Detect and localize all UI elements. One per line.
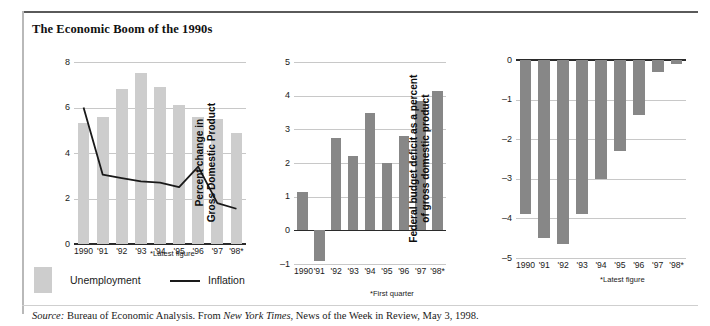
chart-1-y-tick-4: 4 xyxy=(268,91,290,100)
chart-0-y-tick-6: 6 xyxy=(48,103,70,112)
bar xyxy=(520,60,532,214)
bar xyxy=(614,60,626,151)
bar xyxy=(365,113,375,231)
chart-1-y-axis-label-line2: Gross Domestic Product xyxy=(206,103,217,222)
chart-1-x-tick-3: '93 xyxy=(345,267,362,276)
chart-0-y-tick-0: 0 xyxy=(48,240,70,249)
chart-2-x-tick-1: '91 xyxy=(535,261,554,270)
chart-2-y-tick--2: –2 xyxy=(490,135,512,144)
chart-1-x-tick-1: '91 xyxy=(311,267,328,276)
figure-title: The Economic Boom of the 1990s xyxy=(32,22,212,37)
chart-2-y-axis-label-line2: of gross domestic product xyxy=(420,94,431,223)
chart-1-gridline--1 xyxy=(294,264,446,265)
chart-1-y-tick-1: 1 xyxy=(268,192,290,201)
bar xyxy=(331,138,341,231)
legend-inflation-label: Inflation xyxy=(208,274,245,286)
chart-0-x-tick-8: '98* xyxy=(227,247,246,256)
bar xyxy=(432,91,442,231)
bottom-rule xyxy=(22,305,698,306)
source-text-1: Bureau of Economic Analysis. From xyxy=(64,310,223,321)
inflation-line-series xyxy=(74,62,246,244)
chart-1-footnote: *First quarter xyxy=(370,289,414,298)
source-text-2: , News of the Week in Review, May 3, 199… xyxy=(291,310,479,321)
bar xyxy=(297,192,307,231)
chart-0-x-tick-5: '95 xyxy=(170,247,189,256)
chart-0-x-tick-3: '93 xyxy=(131,247,150,256)
chart-2-x-tick-3: '93 xyxy=(573,261,592,270)
chart-2-y-axis-label-line1: Federal budget deficit as a percent xyxy=(408,75,419,243)
chart-0-x-tick-4: '94 xyxy=(150,247,169,256)
top-rule xyxy=(22,11,698,13)
chart-2-x-tick-7: '97 xyxy=(648,261,667,270)
bar xyxy=(595,60,607,179)
source-prefix: Source: xyxy=(32,310,64,321)
chart-2-y-tick-0: 0 xyxy=(490,56,512,65)
chart-1-y-tick-2: 2 xyxy=(268,159,290,168)
figure-source: Source: Bureau of Economic Analysis. Fro… xyxy=(32,310,479,321)
chart-0-plot-area xyxy=(74,62,246,244)
chart-1-x-tick-2: '92 xyxy=(328,267,345,276)
bar xyxy=(671,60,683,64)
legend-unemployment-swatch xyxy=(34,267,52,293)
chart-2-y-tick--5: –5 xyxy=(490,254,512,263)
bar xyxy=(538,60,550,238)
chart-2-footnote: *Latest figure xyxy=(600,275,645,284)
chart-1-y-tick-0: 0 xyxy=(268,226,290,235)
chart-1-y-tick-5: 5 xyxy=(268,58,290,67)
chart-1-y-axis-label-line1: Percent change in xyxy=(194,119,205,207)
chart-0-x-tick-1: '91 xyxy=(93,247,112,256)
source-publication: New York Times xyxy=(223,310,290,321)
chart-2-x-tick-4: '94 xyxy=(592,261,611,270)
chart-0-y-tick-8: 8 xyxy=(48,58,70,67)
bar xyxy=(348,156,358,230)
chart-2-x-tick-2: '92 xyxy=(554,261,573,270)
chart-1-y-tick-3: 3 xyxy=(268,125,290,134)
chart-1-x-tick-0: 1990 xyxy=(294,267,311,276)
bar xyxy=(314,230,324,260)
chart-1-y-tick--1: –1 xyxy=(268,260,290,269)
chart-1-x-tick-5: '95 xyxy=(378,267,395,276)
chart-0-y-tick-4: 4 xyxy=(48,149,70,158)
chart-0-x-tick-2: '92 xyxy=(112,247,131,256)
figure-root: The Economic Boom of the 1990s Percent c… xyxy=(0,0,710,326)
chart-2-y-tick--1: –1 xyxy=(490,95,512,104)
bar xyxy=(633,60,645,115)
legend-inflation-line xyxy=(170,280,200,282)
chart-1-x-tick-4: '94 xyxy=(362,267,379,276)
bar xyxy=(576,60,588,214)
chart-2-x-tick-8: '98* xyxy=(667,261,686,270)
bar xyxy=(652,60,664,72)
chart-1-x-tick-7: '97 xyxy=(412,267,429,276)
chart-2-x-tick-6: '96 xyxy=(629,261,648,270)
bar xyxy=(557,60,569,244)
chart-2-plot-area xyxy=(516,60,686,258)
chart-2-gridline--5 xyxy=(516,258,686,259)
left-rule xyxy=(22,11,24,314)
chart-2-x-tick-0: 1990 xyxy=(516,261,535,270)
chart-0-x-tick-0: 1990 xyxy=(74,247,93,256)
chart-2-y-tick--4: –4 xyxy=(490,214,512,223)
chart-2-x-tick-5: '95 xyxy=(610,261,629,270)
chart-2-y-tick--3: –3 xyxy=(490,174,512,183)
legend-unemployment-label: Unemployment xyxy=(70,274,141,286)
chart-0-y-tick-2: 2 xyxy=(48,194,70,203)
bar xyxy=(382,163,392,230)
chart-1-x-tick-8: '98* xyxy=(429,267,446,276)
chart-0-legend: Unemployment Inflation xyxy=(34,267,294,297)
chart-1-x-tick-6: '96 xyxy=(395,267,412,276)
chart-2-y-axis-label: Federal budget deficit as a percent of g… xyxy=(408,59,431,259)
chart-1-y-axis-label: Percent change in Gross Domestic Product xyxy=(194,63,217,263)
